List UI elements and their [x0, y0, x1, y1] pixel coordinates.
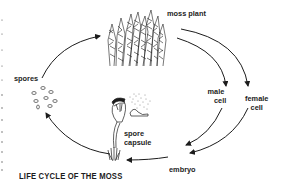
label-female-cell-line1: female [242, 94, 271, 103]
arrow-capsule-to-spores [46, 113, 110, 154]
label-spore-capsule-line2: capsule [124, 138, 151, 147]
label-female-cell: female cell [242, 94, 271, 112]
arrow-moss-to-male [177, 38, 226, 86]
arrow-moss-to-female [181, 29, 248, 86]
arrow-male-to-embryo [186, 108, 222, 145]
moss-life-cycle-diagram: moss plant male cell female cell embryo … [0, 0, 283, 184]
diagram-title: LIFE CYCLE OF THE MOSS [19, 171, 122, 181]
spores-icon [32, 87, 57, 110]
label-embryo: embryo [169, 165, 196, 174]
label-male-cell: male cell [204, 87, 228, 105]
diagram-artwork [0, 0, 283, 184]
moss-plant-icon [108, 10, 166, 66]
label-spore-capsule: spore capsule [124, 129, 151, 147]
label-male-cell-line2: cell [204, 96, 228, 105]
arrow-embryo-to-capsule [127, 157, 168, 160]
label-spores: spores [14, 74, 38, 83]
arrow-spores-to-moss [42, 36, 100, 78]
label-female-cell-line2: cell [242, 103, 271, 112]
label-male-cell-line1: male [204, 87, 228, 96]
label-moss-plant: moss plant [167, 9, 206, 18]
spore-capsule-icon [108, 94, 150, 161]
label-spore-capsule-line1: spore [124, 129, 151, 138]
left-edge-dots [1, 19, 2, 170]
